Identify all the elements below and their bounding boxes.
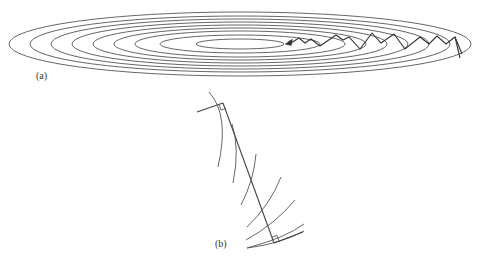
contour-8 [160,35,320,53]
panel-b-label: (b) [215,238,227,249]
contour-4 [72,22,408,66]
diagram-canvas [0,0,484,262]
contour-3 [51,19,429,69]
panel-b-lines [197,103,303,243]
search-line [223,103,274,243]
arc-1 [209,92,222,167]
contour-9 [196,39,284,49]
arc-3 [241,154,256,205]
arrow-head [286,40,292,45]
panel-b-arcs [209,92,304,248]
contour-6 [114,28,366,60]
panel-a-label: (a) [36,70,47,81]
